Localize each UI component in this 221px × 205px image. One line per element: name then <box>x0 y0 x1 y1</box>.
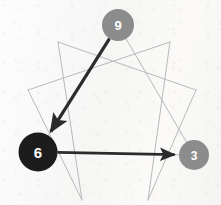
enneagram-node-6[interactable]: 6 <box>19 133 58 172</box>
enneagram-gray-lines <box>28 25 196 200</box>
enneagram-node-3-label: 3 <box>191 149 198 163</box>
enneagram-arrows <box>51 39 175 155</box>
enneagram-line-hex-1-4 <box>148 42 170 200</box>
enneagram-nodes: 963 <box>19 9 210 172</box>
enneagram-node-6-label: 6 <box>34 144 42 161</box>
enneagram-node-9-label: 9 <box>114 18 121 33</box>
enneagram-node-9[interactable]: 9 <box>102 9 134 41</box>
enneagram-canvas: 963 <box>0 0 221 205</box>
enneagram-line-tri-3-9 <box>118 25 194 155</box>
enneagram-diagram: 963 <box>0 0 221 205</box>
enneagram-line-hex-2-8 <box>58 42 196 90</box>
enneagram-line-hex-7-1 <box>28 42 170 90</box>
enneagram-node-3[interactable]: 3 <box>179 140 209 170</box>
